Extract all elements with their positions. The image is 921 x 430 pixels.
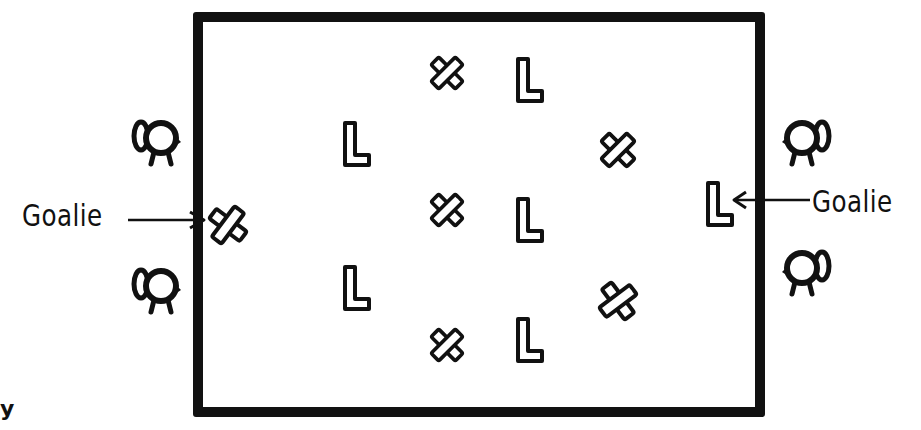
l-player-marker <box>339 120 375 170</box>
left-goalie-label: Goalie <box>22 198 102 233</box>
left-goalie-arrow-icon <box>128 208 208 236</box>
x-goalie-marker <box>203 198 253 252</box>
cropped-text-fragment: y <box>0 396 14 421</box>
l-player-marker <box>512 316 548 366</box>
l-player-marker <box>339 264 375 314</box>
playing-field <box>193 12 765 417</box>
x-player-marker <box>594 126 642 174</box>
l-player-marker <box>512 196 548 246</box>
camera-icon-left-bottom <box>125 258 185 318</box>
right-goalie-label: Goalie <box>812 184 892 219</box>
x-player-marker <box>424 50 470 96</box>
x-player-marker <box>594 276 642 326</box>
camera-icon-left-top <box>125 110 185 170</box>
right-goalie-arrow-icon <box>730 188 812 216</box>
x-player-marker <box>424 187 470 233</box>
camera-icon-right-bottom <box>778 240 838 300</box>
x-player-marker <box>424 322 470 368</box>
l-player-marker <box>512 56 548 106</box>
camera-icon-right-top <box>778 110 838 170</box>
